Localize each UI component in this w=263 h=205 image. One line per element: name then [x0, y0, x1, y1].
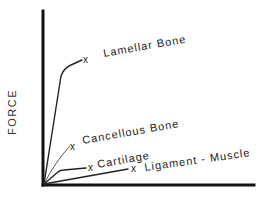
curve-lamellar-bone [44, 60, 82, 184]
end-marker-ligament-muscle: x [131, 163, 136, 174]
curve-ligament-muscle [44, 169, 128, 184]
force-curve-chart: FORCE x Lamellar Bone x Cancellous Bone … [0, 0, 263, 205]
end-marker-lamellar-bone: x [83, 54, 88, 65]
y-axis-label: FORCE [6, 89, 18, 135]
label-lamellar-bone: Lamellar Bone [102, 33, 187, 59]
curve-cancellous-bone [44, 146, 70, 184]
curve-cartilage [44, 168, 86, 184]
label-ligament-muscle: Ligament - Muscle [144, 146, 252, 173]
label-cancellous-bone: Cancellous Bone [81, 117, 180, 146]
label-cartilage: Cartilage [96, 149, 150, 170]
end-marker-cartilage: x [88, 162, 93, 173]
end-marker-cancellous-bone: x [70, 141, 75, 152]
